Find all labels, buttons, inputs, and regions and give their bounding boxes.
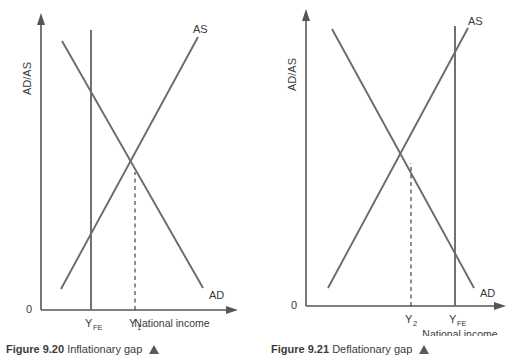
x-axis-label: National income (134, 317, 209, 329)
figure-caption-inflationary: Figure 9.20 Inflationary gap (6, 342, 159, 356)
curve-ad (332, 29, 474, 288)
figure-deflationary-gap: AD/AS 0 AS AD Y 2 Y FE National income F… (265, 0, 530, 364)
caption-text: Deflationary gap (332, 343, 412, 355)
x-tick-y2-subscript: 2 (413, 319, 417, 328)
x-axis (306, 302, 506, 310)
x-axis-label: National income (422, 328, 497, 336)
y-axis (37, 13, 45, 310)
figure-pair: AD/AS 0 AS AD Y FE Y 1 National income F… (0, 0, 530, 364)
curve-label-as: AS (193, 23, 208, 35)
x-axis (41, 306, 238, 314)
caption-text: Inflationary gap (67, 343, 142, 355)
chart-inflationary-gap: AD/AS 0 AS AD Y FE Y 1 National income (0, 0, 265, 336)
curve-label-ad: AD (480, 287, 495, 299)
caption-number: Figure 9.21 (271, 343, 329, 355)
curve-label-as: AS (468, 15, 483, 27)
x-tick-yfe-base: Y (449, 313, 457, 325)
origin-label: 0 (291, 299, 297, 311)
x-tick-yfe-base: Y (85, 317, 93, 329)
triangle-icon (149, 345, 159, 354)
y-axis (302, 9, 310, 306)
chart-deflationary-gap: AD/AS 0 AS AD Y 2 Y FE National income (265, 0, 530, 336)
y-axis-label: AD/AS (21, 62, 33, 95)
figure-inflationary-gap: AD/AS 0 AS AD Y FE Y 1 National income F… (0, 0, 265, 364)
origin-label: 0 (26, 303, 32, 315)
triangle-icon (419, 345, 429, 354)
y-axis-label: AD/AS (286, 58, 298, 91)
curve-ad (62, 41, 203, 288)
curve-label-ad: AD (209, 289, 224, 301)
curve-as (328, 28, 468, 288)
x-tick-yfe-subscript: FE (457, 319, 467, 328)
x-tick-yfe: Y FE (449, 313, 467, 328)
figure-caption-deflationary: Figure 9.21 Deflationary gap (271, 342, 429, 356)
x-tick-y2-base: Y (405, 313, 413, 325)
x-tick-y2: Y 2 (405, 313, 417, 328)
x-tick-yfe-subscript: FE (93, 323, 103, 332)
x-tick-yfe: Y FE (85, 317, 103, 332)
caption-number: Figure 9.20 (6, 343, 64, 355)
